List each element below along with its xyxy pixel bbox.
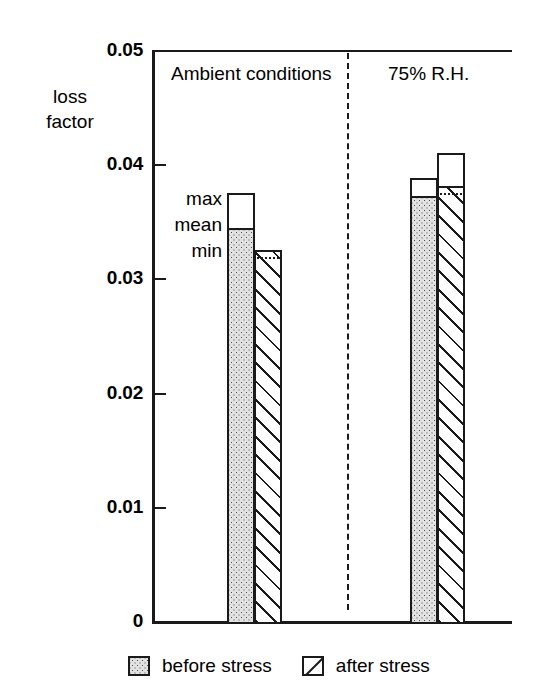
stat-label-mean: mean [160, 212, 222, 238]
y-axis-title: loss factor [10, 84, 130, 134]
legend-item-before-stress: before stress [128, 655, 272, 677]
bar-max-cap [437, 153, 465, 188]
y-axis-tick-mark [155, 278, 166, 280]
bar-max-cap [410, 178, 438, 198]
panel-header-ambient: Ambient conditions [171, 63, 332, 85]
y-axis-tick-label-wrap: 0.02 [0, 382, 143, 404]
y-axis-line [152, 50, 155, 624]
y-axis-tick-label: 0.02 [107, 382, 143, 404]
plot-top-frame-line [152, 50, 512, 52]
y-axis-tick-label: 0.05 [107, 39, 143, 61]
bar-min-marker [437, 193, 465, 195]
loss-factor-chart: loss factor 0.050.040.030.020.010 Ambien… [0, 0, 540, 695]
bar-after-stress[interactable] [254, 250, 282, 624]
bar-max-cap [227, 193, 255, 230]
legend-label-before-stress: before stress [162, 655, 272, 677]
y-axis-tick-label: 0 [133, 610, 143, 632]
y-axis-tick-label: 0.01 [107, 496, 143, 518]
bar-after-stress[interactable] [437, 186, 465, 624]
stat-label-min: min [160, 238, 222, 264]
bar-before-stress[interactable] [227, 228, 255, 624]
panel-header-rh: 75% R.H. [388, 63, 469, 85]
bar-min-marker [254, 257, 282, 259]
stat-annotation-labels: max mean min [160, 186, 222, 264]
y-axis-tick-label-wrap: 0 [0, 610, 143, 632]
legend-item-after-stress: after stress [302, 655, 430, 677]
chart-legend: before stress after stress [128, 655, 430, 677]
y-axis-tick-label: 0.03 [107, 267, 143, 289]
bar-before-stress[interactable] [410, 196, 438, 624]
hatched-swatch-icon [302, 656, 324, 676]
dotted-swatch-icon [128, 656, 150, 676]
y-axis-tick-mark [155, 507, 166, 509]
legend-label-after-stress: after stress [336, 655, 430, 677]
y-axis-tick-label-wrap: 0.01 [0, 496, 143, 518]
y-axis-title-line1: loss [10, 84, 130, 109]
y-axis-tick-mark [155, 164, 166, 166]
panel-divider-dashed-line [347, 53, 349, 610]
stat-label-max: max [160, 186, 222, 212]
y-axis-tick-label-wrap: 0.03 [0, 267, 143, 289]
y-axis-title-line2: factor [10, 109, 130, 134]
y-axis-tick-label: 0.04 [107, 153, 143, 175]
y-axis-tick-label-wrap: 0.05 [0, 39, 143, 61]
y-axis-tick-mark [155, 393, 166, 395]
y-axis-tick-label-wrap: 0.04 [0, 153, 143, 175]
